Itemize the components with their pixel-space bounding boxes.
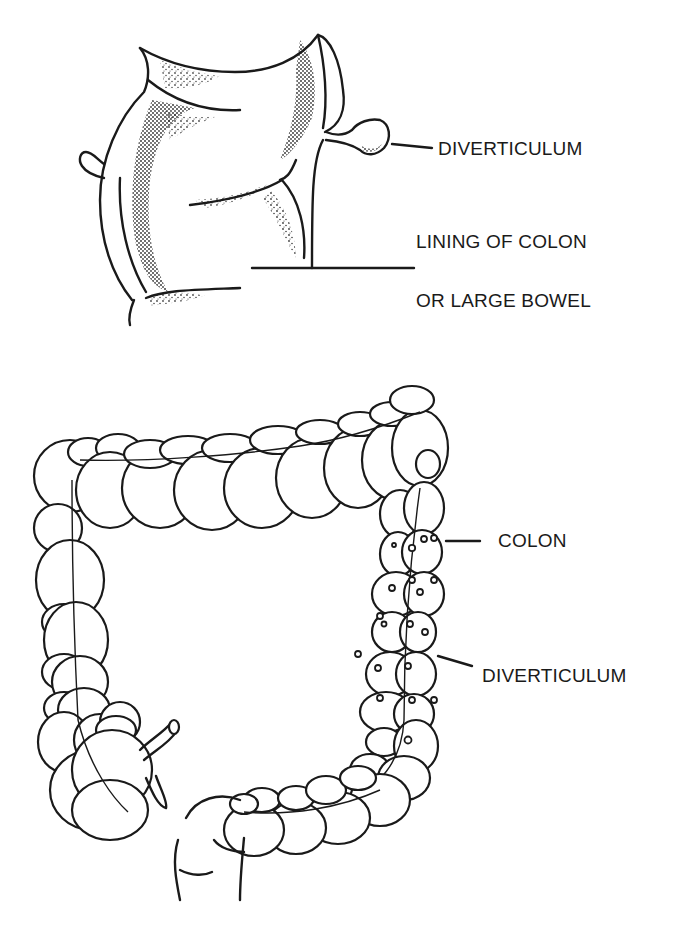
sigmoid-colon	[175, 766, 410, 900]
label-lining-of-colon: LINING OF COLON	[416, 232, 587, 251]
large-intestine-overview	[34, 386, 448, 900]
diverticulum-left	[80, 152, 104, 178]
diverticulum-leader-bottom	[438, 656, 472, 666]
label-diverticulum-top: DIVERTICULUM	[438, 139, 583, 158]
diverticulum-leader-top	[392, 144, 432, 148]
descending-colon	[340, 482, 444, 802]
diagram-canvas: DIVERTICULUM LINING OF COLON OR LARGE BO…	[0, 0, 682, 942]
colon-wall-cross-section	[80, 35, 389, 325]
label-colon: COLON	[498, 531, 567, 550]
label-diverticulum-bottom: DIVERTICULUM	[482, 666, 627, 685]
label-or-large-bowel: OR LARGE BOWEL	[416, 291, 591, 310]
